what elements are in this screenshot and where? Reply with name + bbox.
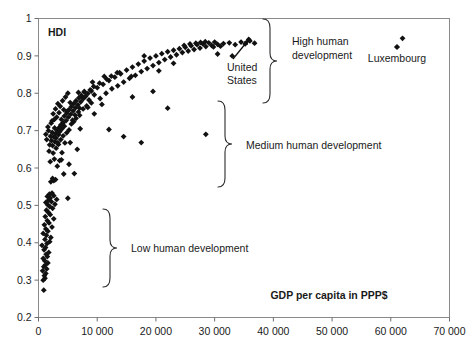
y-tick-label: 0.6 — [17, 162, 32, 174]
high-human-development-label-line1: High human — [292, 35, 349, 47]
x-tick-label: 70 000 — [433, 325, 465, 337]
x-tick-label: 30 000 — [199, 325, 231, 337]
united-states-label-line1: United — [227, 61, 258, 73]
y-tick-label: 0.4 — [17, 236, 32, 248]
x-tick-label: 10 000 — [81, 325, 113, 337]
luxembourg-legend-label: Luxembourg — [368, 52, 427, 64]
x-tick-label: 60 000 — [375, 325, 407, 337]
x-axis-title: GDP per capita in PPP$ — [270, 289, 387, 301]
y-tick-label: 0.2 — [17, 311, 32, 323]
united-states-label-line2: States — [227, 74, 257, 86]
y-tick-label: 1 — [26, 12, 32, 24]
x-tick-label: 20 000 — [140, 325, 172, 337]
chart-svg: 0.20.30.40.50.60.70.80.91 010 00020 0003… — [0, 0, 467, 355]
low-human-development-label: Low human development — [131, 242, 248, 254]
y-tick-label: 0.7 — [17, 124, 32, 136]
high-human-development-label-line2: development — [292, 49, 352, 61]
x-tick-label: 0 — [36, 325, 42, 337]
y-axis-title: HDI — [48, 26, 66, 38]
y-tick-label: 0.5 — [17, 199, 32, 211]
x-tick-label: 50 000 — [316, 325, 348, 337]
x-tick-label: 40 000 — [257, 325, 289, 337]
scatter-chart-figure: 0.20.30.40.50.60.70.80.91 010 00020 0003… — [0, 0, 467, 355]
medium-human-development-label: Medium human development — [246, 139, 381, 151]
y-tick-label: 0.8 — [17, 87, 32, 99]
y-tick-label: 0.3 — [17, 274, 32, 286]
y-tick-label: 0.9 — [17, 50, 32, 62]
